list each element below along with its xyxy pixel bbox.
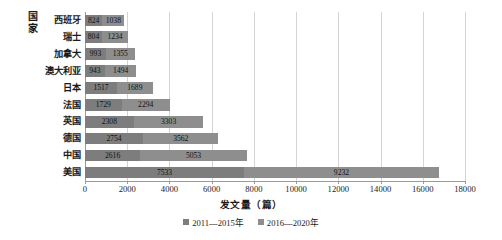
bar-segment[interactable]: 3303 [134, 116, 204, 128]
category-label: 日本 [34, 80, 81, 97]
bar-value-label: 5053 [186, 152, 201, 160]
bar-value-label: 3562 [173, 135, 188, 143]
category-label: 加拿大 [34, 46, 81, 63]
category-axis-labels: 西班牙瑞士加拿大澳大利亚日本法国英国德国中国美国 [34, 12, 81, 181]
bar-row: 27543562 [85, 130, 465, 147]
plot-area: 8241038804123499313559431494151716891729… [85, 12, 465, 181]
bar-value-label: 943 [89, 67, 100, 75]
bar-value-label: 3303 [161, 118, 176, 126]
bar-row: 9931355 [85, 46, 465, 63]
bar-row: 17292294 [85, 97, 465, 114]
bar-value-label: 1494 [113, 67, 128, 75]
chart-legend: 2011—2015年2016—2020年 [0, 216, 502, 228]
x-axis-title: 发文量（篇） [0, 197, 502, 211]
bar-value-label: 1234 [107, 33, 122, 41]
legend-item[interactable]: 2016—2020年 [258, 216, 319, 228]
bar-value-label: 7533 [157, 169, 172, 177]
legend-label: 2011—2015年 [192, 216, 244, 228]
legend-label: 2016—2020年 [267, 216, 319, 228]
bar-segment[interactable]: 1234 [102, 31, 128, 43]
bar-value-label: 9232 [334, 169, 349, 177]
category-label: 法国 [34, 97, 81, 114]
bar-segment[interactable]: 1729 [85, 99, 122, 111]
bar-segment[interactable]: 1689 [117, 82, 153, 94]
gridline [465, 12, 466, 181]
x-axis-tick-label: 8000 [245, 183, 262, 195]
bar-segment[interactable]: 7533 [85, 167, 244, 179]
category-label: 美国 [34, 164, 81, 181]
bar-segment[interactable]: 3562 [143, 133, 218, 145]
bar-value-label: 2308 [102, 118, 117, 126]
stacked-bar-chart: 国 家 西班牙瑞士加拿大澳大利亚日本法国英国德国中国美国 82410388041… [0, 0, 502, 240]
category-label: 西班牙 [34, 12, 81, 29]
x-axis-tick-label: 6000 [203, 183, 220, 195]
bar-value-label: 824 [88, 17, 99, 25]
stacked-bar[interactable]: 75339232 [85, 167, 439, 179]
bar-segment[interactable]: 993 [85, 48, 106, 60]
stacked-bar[interactable]: 9431494 [85, 65, 136, 77]
bar-segment[interactable]: 9232 [244, 167, 439, 179]
stacked-bar[interactable]: 9931355 [85, 48, 135, 60]
x-axis-tick-label: 4000 [161, 183, 178, 195]
category-label: 中国 [34, 147, 81, 164]
bar-segment[interactable]: 824 [85, 15, 102, 27]
bar-row: 8241038 [85, 12, 465, 29]
category-label: 英国 [34, 113, 81, 130]
bar-value-label: 1038 [106, 17, 121, 25]
x-axis-tick-label: 18000 [454, 183, 475, 195]
x-axis-tick-label: 0 [83, 183, 87, 195]
legend-swatch-icon [258, 219, 264, 225]
legend-swatch-icon [183, 219, 189, 225]
bar-rows: 8241038804123499313559431494151716891729… [85, 12, 465, 181]
category-label: 澳大利亚 [34, 63, 81, 80]
x-axis-tick-label: 2000 [119, 183, 136, 195]
bar-segment[interactable]: 804 [85, 31, 102, 43]
bar-row: 8041234 [85, 29, 465, 46]
bar-value-label: 2754 [106, 135, 121, 143]
bar-value-label: 2616 [105, 152, 120, 160]
bar-row: 26165053 [85, 147, 465, 164]
bar-segment[interactable]: 2616 [85, 150, 140, 162]
x-axis-tick-label: 12000 [328, 183, 349, 195]
bar-segment[interactable]: 5053 [140, 150, 247, 162]
x-axis-tick-label: 14000 [370, 183, 391, 195]
stacked-bar[interactable]: 26165053 [85, 150, 247, 162]
bar-row: 15171689 [85, 80, 465, 97]
x-axis-tick-label: 10000 [285, 183, 306, 195]
bar-segment[interactable]: 1494 [105, 65, 137, 77]
bar-value-label: 1729 [96, 101, 111, 109]
stacked-bar[interactable]: 17292294 [85, 99, 170, 111]
x-axis-tick-label: 16000 [412, 183, 433, 195]
bar-value-label: 993 [90, 50, 101, 58]
bar-value-label: 2294 [138, 101, 153, 109]
x-axis-tick-labels: 0200040006000800010000120001400016000180… [85, 183, 465, 197]
bar-segment[interactable]: 1517 [85, 82, 117, 94]
bar-segment[interactable]: 2308 [85, 116, 134, 128]
bar-segment[interactable]: 2294 [122, 99, 170, 111]
bar-value-label: 1355 [113, 50, 128, 58]
x-axis-line [85, 181, 466, 182]
category-label: 德国 [34, 130, 81, 147]
bar-segment[interactable]: 1038 [102, 15, 124, 27]
bar-value-label: 1517 [93, 84, 108, 92]
bar-row: 9431494 [85, 63, 465, 80]
bar-row: 23083303 [85, 113, 465, 130]
stacked-bar[interactable]: 8041234 [85, 31, 128, 43]
bar-value-label: 804 [88, 33, 99, 41]
stacked-bar[interactable]: 8241038 [85, 15, 124, 27]
category-label: 瑞士 [34, 29, 81, 46]
stacked-bar[interactable]: 23083303 [85, 116, 203, 128]
bar-segment[interactable]: 1355 [106, 48, 135, 60]
stacked-bar[interactable]: 27543562 [85, 133, 218, 145]
legend-item[interactable]: 2011—2015年 [183, 216, 244, 228]
bar-row: 75339232 [85, 164, 465, 181]
stacked-bar[interactable]: 15171689 [85, 82, 153, 94]
bar-value-label: 1689 [127, 84, 142, 92]
bar-segment[interactable]: 2754 [85, 133, 143, 145]
bar-segment[interactable]: 943 [85, 65, 105, 77]
